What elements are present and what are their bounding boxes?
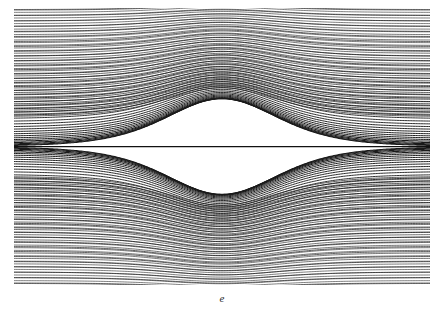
figure-caption: e — [0, 292, 444, 304]
plot-area — [14, 8, 430, 285]
streamline-plot — [14, 8, 430, 285]
figure-root: e — [0, 0, 444, 313]
